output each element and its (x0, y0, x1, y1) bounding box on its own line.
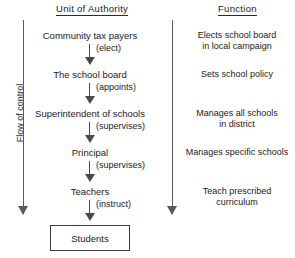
flow-of-control-diagram: Unit of Authority Function Flow of contr… (0, 0, 295, 258)
relation-label-5: (instruct) (96, 199, 131, 209)
relation-label-1: (elect) (96, 43, 121, 53)
flow-arrow-right (167, 20, 178, 214)
function-4: Manages specific schools (180, 147, 294, 158)
function-5-line-2: curriculum (180, 197, 294, 208)
relation-label-2: (appoints) (96, 82, 136, 92)
relation-arrow-3: (supervises) (24, 122, 156, 144)
function-5-line-1: Teach prescribed (180, 186, 294, 197)
function-4-line-1: Manages specific schools (180, 147, 294, 158)
relation-arrow-2: (appoints) (24, 83, 156, 105)
students-box-label: Students (71, 233, 109, 244)
function-2-line-1: Sets school policy (180, 69, 294, 80)
function-1-line-2: in local campaign (180, 41, 294, 52)
function-2: Sets school policy (180, 69, 294, 80)
authority-unit-3: Superintendent of schools (24, 108, 156, 119)
authority-unit-1: Community tax payers (24, 30, 156, 41)
relation-arrow-5: (instruct) (24, 200, 156, 222)
function-3-line-1: Manages all schools (180, 108, 294, 119)
flow-arrow-right-shaft (172, 20, 173, 214)
column-header-function: Function (218, 3, 257, 16)
relation-arrow-2-head-icon (85, 96, 95, 104)
relation-arrow-1-head-icon (85, 57, 95, 65)
function-1-line-1: Elects school board (180, 30, 294, 41)
function-5: Teach prescribed curriculum (180, 186, 294, 208)
authority-unit-2: The school board (24, 69, 156, 80)
relation-arrow-4: (supervises) (24, 161, 156, 183)
relation-label-4: (supervises) (96, 160, 145, 170)
flow-arrow-right-head-icon (167, 206, 177, 215)
relation-label-3: (supervises) (96, 121, 145, 131)
relation-arrow-4-head-icon (85, 174, 95, 182)
authority-unit-5: Teachers (24, 186, 156, 197)
column-header-unit-of-authority: Unit of Authority (56, 3, 128, 16)
relation-arrow-5-head-icon (85, 213, 95, 221)
students-box: Students (50, 225, 130, 251)
relation-arrow-3-head-icon (85, 135, 95, 143)
function-3-line-2: in district (180, 119, 294, 130)
relation-arrow-1: (elect) (24, 44, 156, 66)
function-3: Manages all schools in district (180, 108, 294, 130)
function-1: Elects school board in local campaign (180, 30, 294, 52)
authority-unit-4: Principal (24, 147, 156, 158)
